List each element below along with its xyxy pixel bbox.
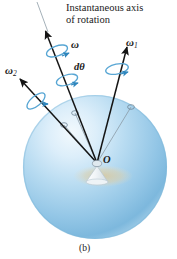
label-dtheta: dθ: [74, 61, 85, 73]
label-origin: O: [103, 154, 111, 166]
label-omega: ω: [71, 38, 79, 50]
label-omega1-base: ω: [126, 36, 134, 48]
label-omega2-base: ω: [5, 64, 13, 76]
spin-ring-omega: [45, 43, 69, 60]
spin-ring-omega1: [105, 62, 130, 77]
label-omega1: ω1: [126, 36, 138, 50]
label-omega2: ω2: [5, 64, 17, 78]
figure-title-line1: Instantaneous axis: [66, 2, 143, 13]
label-omega1-subscript: 1: [134, 41, 138, 50]
instantaneous-axis-line: [37, 2, 48, 32]
figure-caption: (b): [79, 243, 90, 254]
figure-title-line2: of rotation: [66, 14, 110, 25]
diagram-canvas: [0, 0, 177, 259]
label-omega2-subscript: 2: [13, 69, 17, 78]
figure-instantaneous-axis-of-rotation: Instantaneous axis of rotation ω ω1 ω2 d…: [0, 0, 177, 259]
spin-ring-dtheta: [55, 72, 79, 88]
spin-ring-omega2: [24, 90, 48, 112]
figure-title: Instantaneous axis of rotation: [66, 2, 143, 26]
